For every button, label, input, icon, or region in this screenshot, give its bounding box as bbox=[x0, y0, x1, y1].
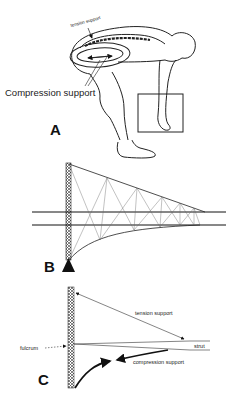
panel-a-compression-label: Compression support bbox=[5, 87, 96, 98]
diagram-canvas: tension support Compression support A bbox=[0, 0, 230, 403]
panel-a-tension-label: tension support bbox=[70, 15, 102, 28]
panel-c-fulcrum-label: fulcrum bbox=[20, 345, 38, 351]
panel-a: tension support Compression support A bbox=[5, 15, 195, 158]
panel-c-tension-arrow bbox=[76, 293, 184, 339]
panel-c-strut bbox=[74, 341, 210, 350]
panel-b: B bbox=[32, 163, 226, 275]
panel-b-letter: B bbox=[44, 258, 55, 275]
panel-c-compression-label: compression support bbox=[133, 359, 185, 365]
panel-c-fulcrum-arrow bbox=[45, 346, 66, 348]
panel-a-letter: A bbox=[50, 121, 61, 138]
panel-a-tension-pointer bbox=[88, 28, 92, 38]
panel-c-tension-label: tension support bbox=[135, 310, 173, 316]
panel-c-letter: C bbox=[38, 371, 49, 388]
panel-b-compression-curve bbox=[69, 225, 200, 260]
panel-c: tension support fulcrum strut compressio… bbox=[20, 287, 210, 388]
panel-c-strut-label: strut bbox=[194, 343, 205, 349]
panel-c-compression-curve bbox=[75, 361, 110, 388]
panel-c-wall bbox=[68, 287, 74, 388]
panel-a-compression-pointer-2 bbox=[88, 57, 107, 86]
panel-b-base-support bbox=[62, 258, 75, 272]
